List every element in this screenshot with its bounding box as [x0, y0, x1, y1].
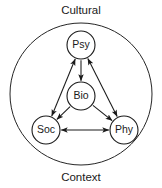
- boundary-label-bottom: Context: [61, 171, 101, 183]
- node-bio[interactable]: Bio: [67, 82, 95, 110]
- node-label-phy: Phy: [115, 123, 134, 135]
- node-phy[interactable]: Phy: [110, 116, 138, 144]
- diagram-container: Psy Bio Soc Phy Cultural Context: [0, 0, 162, 188]
- node-soc[interactable]: Soc: [32, 116, 60, 144]
- edge-bio-soc: [57, 107, 70, 120]
- node-label-psy: Psy: [72, 38, 90, 50]
- node-psy[interactable]: Psy: [67, 31, 95, 59]
- node-label-bio: Bio: [73, 89, 88, 101]
- edge-bio-phy: [93, 105, 112, 120]
- boundary-label-top: Cultural: [61, 4, 101, 16]
- node-group: Psy Bio Soc Phy: [32, 31, 138, 144]
- diagram-canvas: Psy Bio Soc Phy Cultural Context: [0, 0, 162, 188]
- node-label-soc: Soc: [37, 123, 55, 135]
